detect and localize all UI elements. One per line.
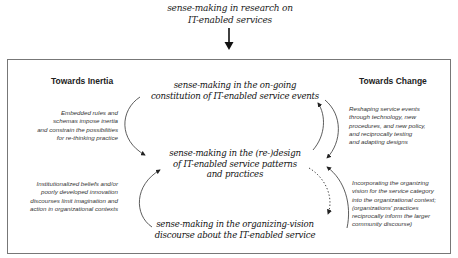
inertia-arrow-bottom-icon: [139, 170, 160, 227]
dotted-arrow-icon: [309, 168, 330, 214]
change-arrow-up-icon: [313, 103, 323, 150]
inertia-arrow-top-icon: [125, 97, 145, 155]
change-arrow-bottom-up-icon: [327, 167, 349, 228]
arrows-layer: [0, 0, 458, 258]
change-arrow-down-icon: [325, 100, 338, 158]
down-arrow-icon: [225, 28, 234, 50]
